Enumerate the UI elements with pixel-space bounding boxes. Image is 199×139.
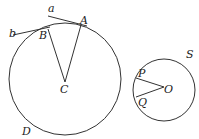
label-b: b bbox=[9, 27, 16, 40]
radius-ca bbox=[65, 25, 81, 82]
label-A: A bbox=[79, 14, 88, 27]
label-Q: Q bbox=[138, 96, 147, 109]
label-O: O bbox=[164, 83, 173, 96]
label-B: B bbox=[38, 29, 47, 42]
label-D: D bbox=[21, 125, 31, 138]
geometry-diagram: a A b B C D S P Q O bbox=[0, 0, 199, 139]
label-a: a bbox=[48, 2, 55, 15]
circle-d bbox=[9, 23, 121, 135]
radius-cb bbox=[48, 29, 65, 82]
label-S: S bbox=[186, 48, 194, 61]
label-P: P bbox=[137, 67, 146, 80]
label-C: C bbox=[60, 83, 69, 96]
